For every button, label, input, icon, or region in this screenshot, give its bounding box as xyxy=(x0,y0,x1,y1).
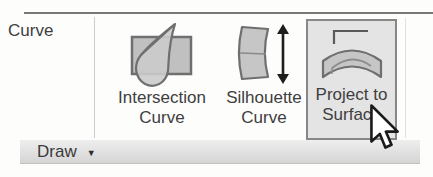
vertical-separator-right xyxy=(405,18,406,138)
silhouette-curve-button[interactable]: Silhouette Curve xyxy=(224,16,304,138)
vertical-separator-left xyxy=(94,17,95,138)
project-to-surface-icon xyxy=(320,23,384,85)
project-to-surface-button[interactable]: Project to Surface xyxy=(306,19,397,140)
draw-panel-label: Draw xyxy=(37,142,77,162)
curve-group-label: Curve xyxy=(8,21,53,41)
intersection-curve-label-line1: Intersection xyxy=(118,88,206,108)
draw-panel-footer[interactable]: Draw ▼ xyxy=(20,140,420,164)
project-to-surface-label-line2: Surface xyxy=(322,105,381,125)
ribbon-panel-screenshot: Curve Intersection Curve Silhouette Curv xyxy=(0,0,433,177)
silhouette-curve-icon xyxy=(232,22,296,88)
silhouette-curve-label-line1: Silhouette xyxy=(226,88,302,108)
panel-top-rule xyxy=(24,12,433,14)
intersection-curve-label-line2: Curve xyxy=(139,108,184,128)
intersection-curve-button[interactable]: Intersection Curve xyxy=(98,16,226,138)
project-to-surface-label-line1: Project to xyxy=(316,85,388,105)
intersection-curve-icon xyxy=(130,22,194,88)
dropdown-caret-icon[interactable]: ▼ xyxy=(87,146,96,158)
silhouette-curve-label-line2: Curve xyxy=(241,108,286,128)
